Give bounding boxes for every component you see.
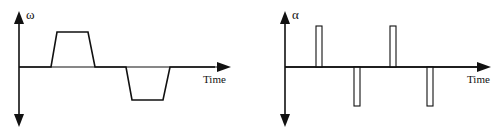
alpha-y-arrow-up-icon: [280, 11, 290, 24]
omega-waveform: [19, 32, 215, 100]
omega-y-arrow-down-icon: [14, 114, 24, 127]
alpha-pulse-negative: [354, 67, 360, 106]
omega-chart: ω Time: [14, 7, 231, 127]
alpha-pulse-positive: [316, 26, 322, 67]
alpha-x-label: Time: [467, 73, 490, 85]
alpha-chart: α Time: [280, 7, 491, 127]
alpha-y-label: α: [292, 7, 299, 22]
omega-y-arrow-up-icon: [14, 11, 24, 24]
omega-y-label: ω: [26, 7, 35, 22]
alpha-pulse-positive: [390, 26, 396, 67]
alpha-y-arrow-down-icon: [280, 114, 290, 127]
omega-x-arrow-icon: [217, 62, 231, 72]
diagram-canvas: ω Time α Time: [0, 0, 503, 134]
alpha-pulse-negative: [427, 67, 433, 106]
omega-x-label: Time: [203, 73, 226, 85]
